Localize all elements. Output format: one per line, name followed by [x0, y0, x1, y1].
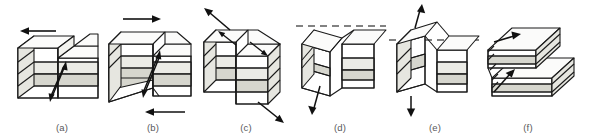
panel-caption-e: (e) [385, 122, 485, 133]
hanging-wall-block-e [397, 22, 437, 92]
oblique-arrow-upper-left-c [204, 8, 230, 30]
oblique-arrow-lower-right-c [258, 102, 284, 123]
fault-panel-f: (f) [478, 0, 578, 139]
fault-block-diagram-e [385, 0, 485, 139]
fault-block-diagram-b [103, 0, 203, 139]
fault-panel-c: (c) [196, 0, 296, 139]
fault-block-figure: (a) [0, 0, 595, 139]
left-block-top-face [109, 32, 165, 44]
fault-panel-d: (d) [290, 0, 390, 139]
right-block-front-face [58, 58, 98, 98]
displacement-arrow-left-a [20, 27, 56, 35]
displacement-arrow-right-b [123, 15, 161, 23]
left-block-top-face [204, 30, 248, 42]
panel-caption-d: (d) [290, 122, 390, 133]
fault-block-diagram-f [478, 0, 588, 139]
footwall-block-e [437, 22, 479, 92]
panel-caption-b: (b) [103, 122, 203, 133]
upthrow-arrow-e [415, 4, 425, 28]
downthrow-arrow-e [407, 96, 415, 117]
fault-plane-trace-e [425, 36, 437, 50]
fault-panel-a: (a) [12, 0, 112, 139]
fault-block-diagram-c [196, 0, 296, 139]
displacement-arrow-left-b [145, 108, 185, 116]
panel-caption-f: (f) [478, 122, 578, 133]
right-block-front-face [236, 56, 268, 104]
hanging-wall-block-d [302, 30, 342, 96]
panel-caption-c: (c) [196, 122, 296, 133]
footwall-block-d [342, 30, 386, 88]
fault-block-diagram-a [12, 0, 112, 139]
fault-panel-b: (b) [103, 0, 203, 139]
fault-block-diagram-d [290, 0, 390, 139]
right-block-front-face [153, 56, 191, 96]
panel-caption-a: (a) [12, 122, 112, 133]
fault-panel-e: (e) [385, 0, 485, 139]
